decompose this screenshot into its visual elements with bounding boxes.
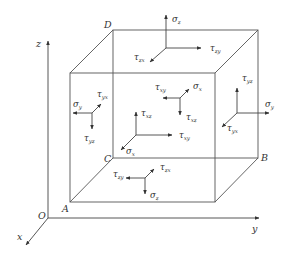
x-axis-label: x [17,231,23,242]
origin-label: O [38,210,46,221]
tau-xz-back-label: τxz [141,108,152,119]
vertex-C-label: C [104,153,112,164]
tau-zx-top-arrow [150,48,166,62]
sigma-y-left-label: σy [73,99,83,111]
y-axis-label: y [251,223,258,234]
sigma-x-front-label: σx [193,81,203,92]
tau-yz-right-label: τyz [242,73,253,85]
vertex-A-label: A [61,203,69,214]
back-face-stresses: τxz τxy σx [121,108,191,157]
tau-xy-front-label: τxy [155,82,167,94]
tau-zx-top-label: τzx [134,52,146,63]
z-axis-label: z [35,38,42,49]
right-face-stresses: τyz σy τyx [222,73,275,135]
edge-top-right [215,30,258,73]
sigma-z-bottom-label: σz [150,190,159,201]
left-face-stresses: σy τyx τyz [73,89,109,145]
edge-B-front [215,158,258,202]
vertex-D-label: D [103,19,112,30]
bottom-face-stresses: τzy τzx σz [113,162,172,201]
stress-element-diagram: z y x O D A B C σz τzy τzx σy τyx τyz [0,0,284,258]
x-axis [26,218,48,245]
sigma-x-back-label: σx [126,146,136,157]
edge-C-A [70,158,113,202]
sigma-z-top-label: σz [172,14,181,25]
edge-D-front [70,30,113,73]
tau-yx-right-label: τyx [227,123,239,135]
tau-yx-left-label: τyx [97,89,109,101]
tau-zy-top-label: τzy [210,43,222,55]
tau-xy-back-label: τxy [179,130,191,142]
tau-zx-bottom-arrow [145,169,154,178]
front-face-stresses: τxy σx τxz [155,81,203,123]
sigma-y-right-label: σy [265,99,275,111]
coordinate-axes: z y x O [17,38,259,245]
tau-xz-front-label: τxz [186,112,197,123]
top-face-stresses: σz τzy τzx [134,14,222,63]
sigma-x-front-arrow [180,89,189,98]
tau-yz-left-label: τyz [84,133,95,145]
tau-zy-bottom-label: τzy [113,169,125,181]
tau-zx-bottom-label: τzx [160,162,172,173]
tau-yx-left-arrow [92,104,101,113]
vertex-B-label: B [260,152,268,163]
